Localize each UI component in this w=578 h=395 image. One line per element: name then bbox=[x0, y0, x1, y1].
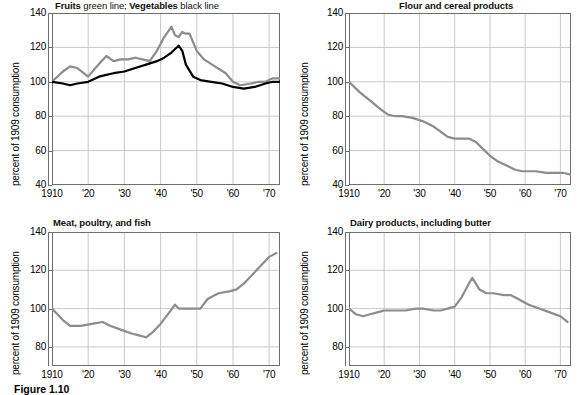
plot-frame bbox=[350, 14, 571, 185]
y-tick-mark bbox=[345, 185, 349, 186]
chart-title-fruits-vegetables: Fruits green line; Vegetables black line bbox=[55, 0, 219, 11]
y-tick-label: 80 bbox=[12, 341, 46, 352]
y-tick-label: 80 bbox=[12, 110, 46, 121]
title-run: Flour and cereal products bbox=[399, 0, 513, 11]
series-line bbox=[349, 278, 567, 322]
plot-frame bbox=[53, 14, 280, 185]
y-tick-label: 120 bbox=[12, 41, 46, 52]
series-line bbox=[52, 253, 276, 337]
title-run: Meat, poultry, and fish bbox=[53, 217, 151, 228]
y-tick-label: 100 bbox=[309, 303, 343, 314]
chart-title-meat-poultry-fish: Meat, poultry, and fish bbox=[53, 217, 151, 228]
y-tick-label: 60 bbox=[12, 145, 46, 156]
y-axis-spine bbox=[345, 13, 346, 185]
y-axis-spine bbox=[48, 13, 49, 185]
title-run: black line bbox=[178, 0, 219, 11]
title-run: Vegetables bbox=[129, 0, 178, 11]
y-tick-label: 60 bbox=[309, 145, 343, 156]
y-tick-label: 100 bbox=[12, 303, 46, 314]
title-run: green line; bbox=[81, 0, 129, 11]
title-run: Fruits bbox=[55, 0, 81, 11]
chart-svg bbox=[52, 232, 280, 366]
chart-title-dairy-products: Dairy products, including butter bbox=[350, 217, 491, 228]
plot-area-meat-poultry-fish bbox=[52, 232, 280, 366]
y-tick-mark bbox=[48, 185, 52, 186]
y-tick-label: 80 bbox=[309, 110, 343, 121]
plot-area-flour-cereal bbox=[349, 13, 571, 185]
chart-svg bbox=[52, 13, 280, 185]
plot-frame bbox=[53, 233, 280, 366]
y-tick-label: 140 bbox=[309, 226, 343, 237]
x-tick-label: '70 bbox=[538, 188, 578, 199]
y-tick-label: 140 bbox=[12, 226, 46, 237]
y-axis-spine bbox=[345, 232, 346, 366]
y-tick-label: 100 bbox=[309, 76, 343, 87]
x-tick-label: '70 bbox=[538, 369, 578, 380]
chart-title-flour-cereal: Flour and cereal products bbox=[399, 0, 513, 11]
chart-svg bbox=[349, 13, 571, 185]
plot-area-fruits-vegetables bbox=[52, 13, 280, 185]
y-tick-label: 100 bbox=[12, 76, 46, 87]
y-tick-label: 80 bbox=[309, 341, 343, 352]
y-tick-label: 120 bbox=[309, 264, 343, 275]
y-tick-label: 140 bbox=[309, 7, 343, 18]
title-run: Dairy products, including butter bbox=[350, 217, 491, 228]
x-tick-label: '70 bbox=[247, 188, 291, 199]
x-tick-label: '70 bbox=[247, 369, 291, 380]
y-tick-label: 120 bbox=[12, 264, 46, 275]
y-tick-label: 120 bbox=[309, 41, 343, 52]
chart-svg bbox=[349, 232, 571, 366]
y-tick-label: 140 bbox=[12, 7, 46, 18]
figure-caption: Figure 1.10 bbox=[14, 383, 69, 395]
plot-area-dairy-products bbox=[349, 232, 571, 366]
series-line bbox=[349, 82, 571, 175]
y-axis-spine bbox=[48, 232, 49, 366]
